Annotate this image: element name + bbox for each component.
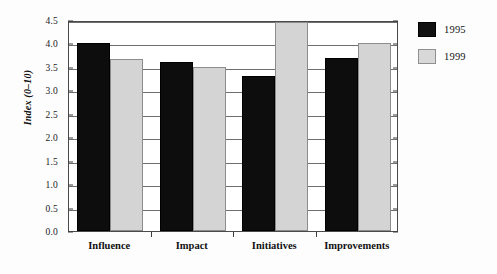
y-axis-tick-mark-right (393, 138, 398, 139)
bar-improvements-1999 (358, 43, 391, 231)
x-axis-tick-mark (233, 232, 234, 237)
y-axis-tick-label: 1.0 (46, 180, 58, 190)
y-axis-tick-mark (68, 185, 73, 186)
y-axis-tick-mark-right (393, 114, 398, 115)
bar-improvements-1995 (325, 58, 358, 231)
y-axis: 0.00.51.01.52.02.53.03.54.04.5 (0, 0, 68, 274)
y-axis-tick-mark (68, 21, 73, 22)
bars-layer (69, 22, 397, 231)
y-axis-tick-mark (68, 161, 73, 162)
legend-item-1999: 1999 (418, 49, 466, 64)
bar-influence-1999 (110, 59, 143, 231)
y-axis-tick-label: 0.5 (46, 204, 58, 214)
y-axis-tick-label: 2.5 (46, 110, 58, 120)
y-axis-tick-label: 1.5 (46, 157, 58, 167)
y-axis-tick-label: 3.5 (46, 63, 58, 73)
x-axis-label-improvements: Improvements (324, 240, 389, 251)
bar-initiatives-1999 (275, 22, 308, 231)
legend-swatch-1995 (418, 22, 436, 37)
legend-item-1995: 1995 (418, 22, 466, 37)
y-axis-tick-label: 4.0 (46, 39, 58, 49)
x-axis-tick-mark (316, 232, 317, 237)
y-axis-tick-mark-right (393, 67, 398, 68)
y-axis-tick-label: 3.0 (46, 86, 58, 96)
y-axis-tick-mark (68, 208, 73, 209)
x-axis-label-impact: Impact (176, 240, 208, 251)
y-axis-tick-mark (68, 138, 73, 139)
y-axis-tick-mark-right (393, 91, 398, 92)
y-axis-tick-mark-right (393, 185, 398, 186)
y-axis-tick-mark (68, 91, 73, 92)
y-axis-tick-mark-right (393, 44, 398, 45)
y-axis-tick-mark-right (393, 232, 398, 233)
y-axis-tick-label: 2.0 (46, 133, 58, 143)
y-axis-tick-mark (68, 44, 73, 45)
legend: 19951999 (418, 22, 466, 76)
legend-swatch-1999 (418, 49, 436, 64)
y-axis-tick-mark (68, 114, 73, 115)
x-axis-label-influence: Influence (88, 240, 130, 251)
bar-impact-1999 (193, 67, 226, 231)
legend-label-1999: 1999 (444, 51, 466, 62)
y-axis-tick-label: 4.5 (46, 16, 58, 26)
y-axis-tick-mark-right (393, 161, 398, 162)
legend-label-1995: 1995 (444, 24, 466, 35)
y-axis-tick-mark-right (393, 21, 398, 22)
bar-chart: Index (0–10) 0.00.51.01.52.02.53.03.54.0… (0, 0, 497, 274)
y-axis-tick-mark (68, 67, 73, 68)
y-axis-tick-label: 0.0 (46, 227, 58, 237)
bar-impact-1995 (160, 62, 193, 231)
y-axis-tick-mark-right (393, 208, 398, 209)
x-axis-tick-mark (151, 232, 152, 237)
bar-initiatives-1995 (242, 76, 275, 231)
plot-area (68, 21, 398, 232)
y-axis-tick-mark (68, 232, 73, 233)
x-axis-label-initiatives: Initiatives (252, 240, 297, 251)
bar-influence-1995 (77, 43, 110, 231)
